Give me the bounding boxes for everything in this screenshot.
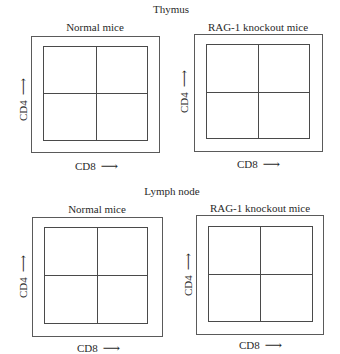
x-axis-text: CD8 [237,159,258,170]
arrow-up-icon: ⟶ [17,78,29,95]
y-axis-label: CD4 ⟶ [17,78,29,121]
x-axis-label: CD8 ⟶ [77,342,120,354]
section-title-lymph-node: Lymph node [144,186,199,197]
x-axis-label: CD8 ⟶ [75,160,118,172]
arrow-up-icon: ⟶ [178,70,190,87]
arrow-up-icon: ⟶ [182,253,194,270]
quadrant-divider-horizontal [206,92,310,93]
x-axis-label: CD8 ⟶ [239,339,282,351]
panel-title: RAG-1 knockout mice [208,22,308,33]
arrow-right-icon: ⟶ [101,160,118,172]
x-axis-text: CD8 [75,161,96,172]
x-axis-label: CD8 ⟶ [237,158,280,170]
quadrant-divider-horizontal [43,93,148,94]
arrow-right-icon: ⟶ [265,339,282,351]
y-axis-text: CD4 [183,275,194,296]
y-axis-label: CD4 ⟶ [17,255,29,298]
panel-title: Normal mice [66,22,124,33]
y-axis-text: CD4 [18,277,29,298]
panel-title: RAG-1 knockout mice [210,203,310,214]
x-axis-text: CD8 [239,340,260,351]
arrow-up-icon: ⟶ [17,255,29,272]
section-title-thymus: Thymus [153,4,189,15]
quadrant-divider-horizontal [208,274,313,275]
y-axis-label: CD4 ⟶ [178,70,190,113]
quadrant-divider-horizontal [44,275,148,276]
y-axis-text: CD4 [18,100,29,121]
y-axis-text: CD4 [179,92,190,113]
y-axis-label: CD4 ⟶ [182,253,194,296]
panel-title: Normal mice [68,204,126,215]
arrow-right-icon: ⟶ [103,342,120,354]
arrow-right-icon: ⟶ [263,158,280,170]
x-axis-text: CD8 [77,343,98,354]
